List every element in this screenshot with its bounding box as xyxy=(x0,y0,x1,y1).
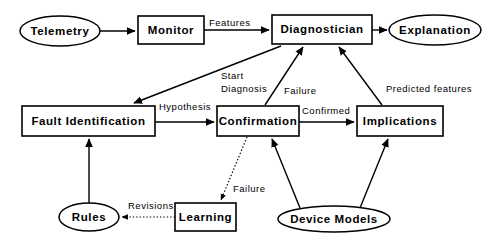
edge-label-start-diagnosis-line2: Diagnosis xyxy=(221,83,267,94)
edge-label-predicted-features: Predicted features xyxy=(386,83,472,94)
implications-label: Implications xyxy=(363,115,437,127)
node-diagnostician[interactable]: Diagnostician xyxy=(272,15,372,44)
node-fault-identification[interactable]: Fault Identification xyxy=(22,106,155,136)
edge-label-failure-to-diagnostician: Failure xyxy=(284,85,317,96)
diagnostician-label: Diagnostician xyxy=(280,23,363,35)
diagram-canvas: Telemetry Monitor Diagnostician Explanat… xyxy=(0,0,496,250)
explanation-label: Explanation xyxy=(399,24,471,36)
node-device-models[interactable]: Device Models xyxy=(278,206,390,232)
node-monitor[interactable]: Monitor xyxy=(138,16,204,44)
monitor-label: Monitor xyxy=(148,24,194,36)
node-rules[interactable]: Rules xyxy=(59,203,119,231)
edge-label-features: Features xyxy=(209,17,251,28)
flow-diagram: Telemetry Monitor Diagnostician Explanat… xyxy=(0,0,496,250)
fault-identification-label: Fault Identification xyxy=(31,115,145,127)
edge-label-start-diagnosis-line1: Start xyxy=(221,70,244,81)
learning-label: Learning xyxy=(179,211,232,223)
edge-label-revisions: Revisions xyxy=(128,200,174,211)
node-explanation[interactable]: Explanation xyxy=(389,15,481,45)
edge-diagnostician-to-fault-identification xyxy=(134,46,281,103)
rules-label: Rules xyxy=(72,211,106,223)
edge-confirmation-to-diagnostician xyxy=(265,47,303,105)
edge-label-hypothesis: Hypothesis xyxy=(159,101,211,112)
edge-device-models-to-implications xyxy=(360,139,388,208)
edge-label-confirmed: Confirmed xyxy=(302,105,350,116)
edge-label-failure-to-learning: Failure xyxy=(233,183,266,194)
node-implications[interactable]: Implications xyxy=(357,106,443,136)
node-learning[interactable]: Learning xyxy=(175,203,236,231)
node-confirmation[interactable]: Confirmation xyxy=(217,106,299,136)
edge-device-models-to-confirmation xyxy=(272,139,300,208)
telemetry-label: Telemetry xyxy=(31,25,90,37)
node-telemetry[interactable]: Telemetry xyxy=(20,16,100,46)
edge-implications-to-diagnostician xyxy=(339,47,382,105)
device-models-label: Device Models xyxy=(290,213,378,225)
confirmation-label: Confirmation xyxy=(219,115,298,127)
